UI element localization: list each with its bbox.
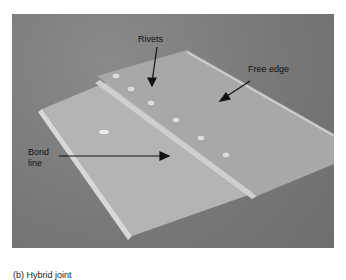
rivets-label: Rivets (138, 34, 163, 45)
joint-photo: Rivets Free edge Bond line (12, 14, 334, 248)
free-edge-label: Free edge (248, 64, 289, 75)
bond-line-label-2: line (28, 158, 42, 169)
hybrid-joint-illustration (12, 14, 334, 248)
bond-line-label-1: Bond (28, 147, 49, 158)
figure-caption: (b) Hybrid joint (13, 270, 72, 280)
